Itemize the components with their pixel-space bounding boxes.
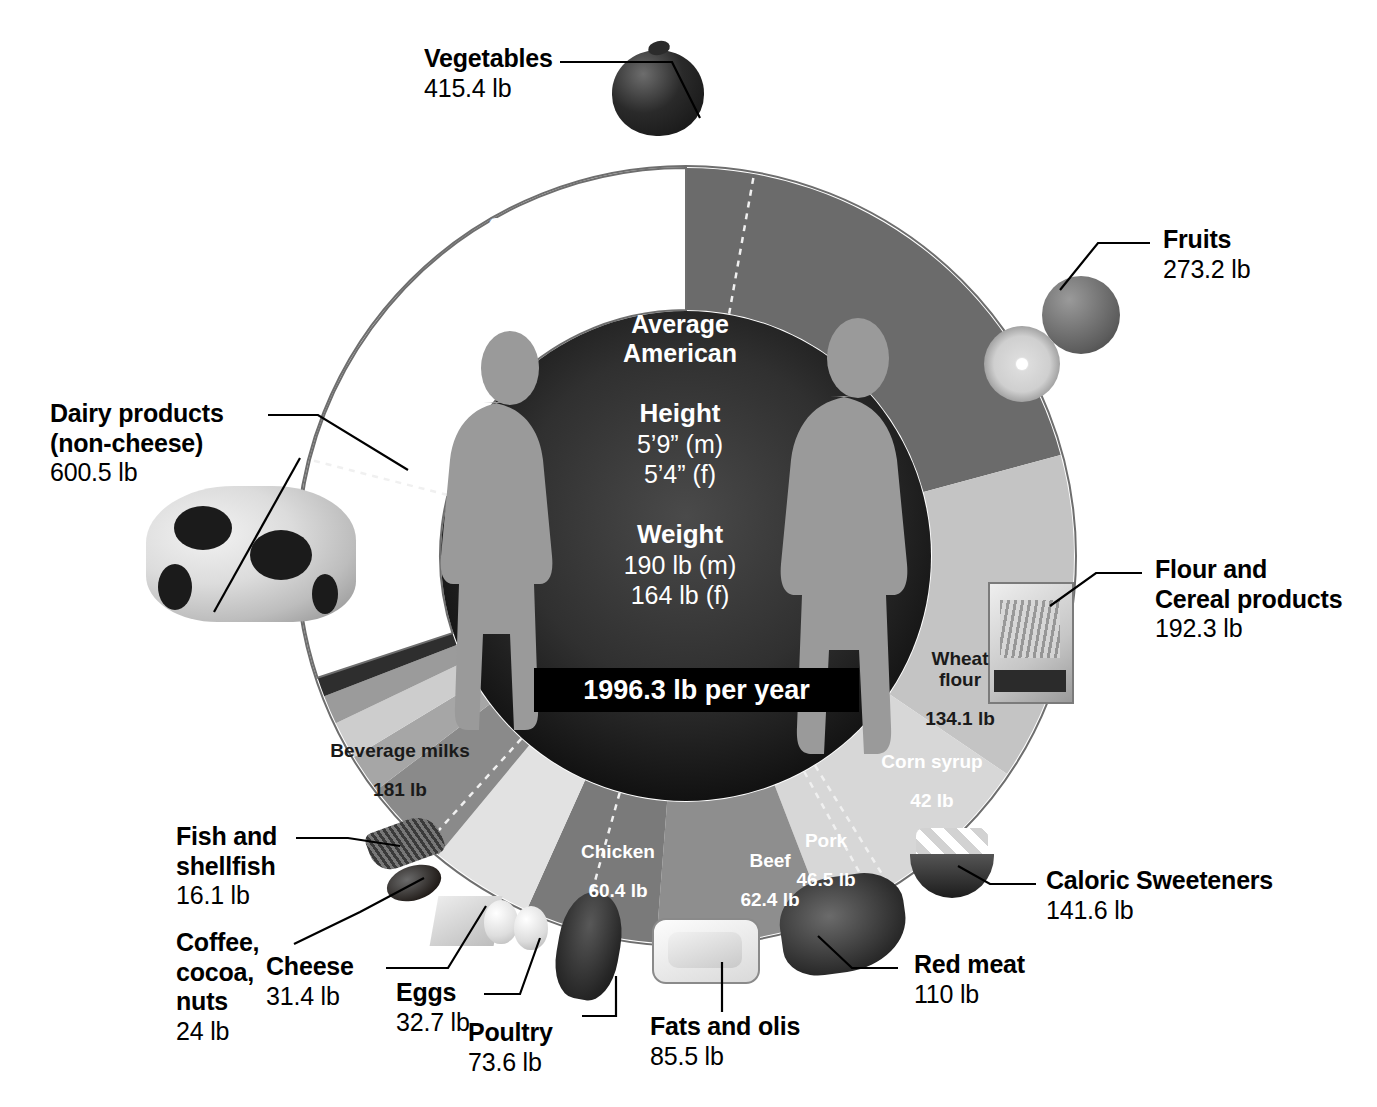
ring-label-beverage-milks: Beverage milks 181 lb (310, 722, 490, 818)
callout-vegetables: Vegetables 415.4 lb (424, 44, 553, 103)
callout-dairy-products: Dairy products (non-cheese) 600.5 lb (50, 399, 224, 488)
callout-cheese: Cheese 31.4 lb (266, 952, 354, 1011)
hub-text-block: Average American Height 5’9” (m) 5’4” (f… (520, 310, 840, 610)
total-banner: 1996.3 lb per year (534, 668, 859, 712)
hub-title: Average American (520, 310, 840, 368)
ring-label-wheat-flour: Wheat flour 134.1 lb (900, 630, 1020, 748)
hub-weight-value: 190 lb (m) 164 lb (f) (520, 550, 840, 610)
callout-flour-cereal: Flour and Cereal products 192.3 lb (1155, 555, 1342, 644)
orange-half-photo (984, 326, 1060, 402)
callout-coffee-cocoa-nuts: Coffee, cocoa, nuts 24 lb (176, 928, 259, 1046)
callout-fruits: Fruits 273.2 lb (1163, 225, 1250, 284)
egg-photo (514, 906, 548, 950)
hub-height-label: Height (520, 398, 840, 429)
hub-weight-label: Weight (520, 519, 840, 550)
ring-label-pork: Pork 46.5 lb (776, 812, 876, 908)
cow-photo (146, 486, 356, 622)
ring-label-corn: Corn 56 lb (456, 196, 566, 292)
ring-label-chicken: Chicken 60.4 lb (556, 823, 680, 919)
infographic-root: Average American Height 5’9” (m) 5’4” (f… (0, 0, 1377, 1107)
callout-poultry: Poultry 73.6 lb (468, 1018, 553, 1077)
tomato-photo (612, 50, 704, 136)
callout-fats-and-oils: Fats and olis 85.5 lb (650, 1012, 800, 1071)
ring-label-corn-syrup: Corn syrup 42 lb (852, 733, 1012, 829)
callout-red-meat: Red meat 110 lb (914, 950, 1025, 1009)
callout-caloric-sweeteners: Caloric Sweeteners 141.6 lb (1046, 866, 1273, 925)
egg-photo (484, 900, 518, 944)
callout-fish-and-shellfish: Fish and shellfish 16.1 lb (176, 822, 277, 911)
callout-eggs: Eggs 32.7 lb (396, 978, 470, 1037)
sugar-bowl-photo (904, 820, 1000, 898)
hub-height-value: 5’9” (m) 5’4” (f) (520, 429, 840, 489)
